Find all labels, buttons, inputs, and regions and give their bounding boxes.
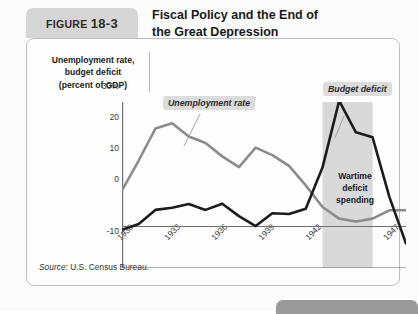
annotation-line3: spending xyxy=(324,194,386,206)
figure-tab: FIGURE 18-3 xyxy=(26,8,138,38)
source-text: U.S. Census Bureau. xyxy=(68,262,149,272)
series-label-unemployment: Unemployment rate xyxy=(163,96,255,110)
figure-tab-label: FIGURE 18-3 xyxy=(26,16,138,31)
series-label-budget-deficit: Budget deficit xyxy=(323,82,392,96)
bottom-partial-tab xyxy=(276,300,418,314)
annotation-wartime-deficit-spending: Wartime deficit spending xyxy=(324,170,386,207)
figure-tab-number: 18-3 xyxy=(91,16,118,31)
figure-title: Fiscal Policy and the End ofthe Great De… xyxy=(152,7,402,41)
plot-area: Unemployment rate Budget deficit Wartime… xyxy=(122,102,406,268)
source-note: Source: U.S. Census Bureau. xyxy=(39,262,149,272)
figure-tab-prefix: FIGURE xyxy=(46,18,87,30)
annotation-line1: Wartime xyxy=(324,170,386,182)
source-label: Source: xyxy=(39,262,68,272)
figure-panel: Unemployment rate, budget deficit (perce… xyxy=(26,38,400,286)
annotation-line2: deficit xyxy=(324,182,386,194)
